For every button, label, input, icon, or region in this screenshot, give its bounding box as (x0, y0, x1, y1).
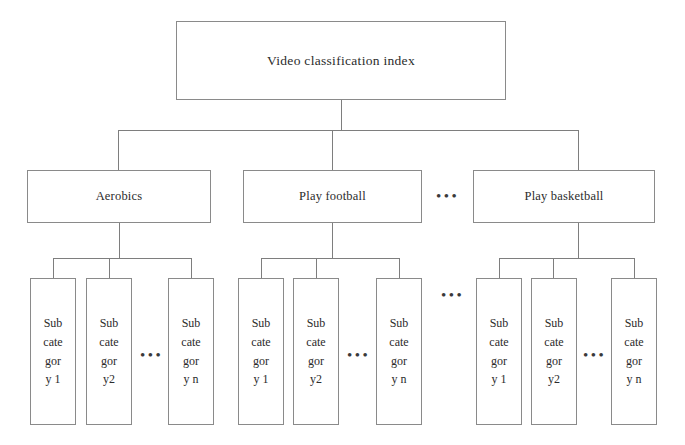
connector-group2-drop-2 (316, 258, 317, 278)
diagram-canvas: Video classification index Aerobics Play… (0, 0, 685, 445)
connector-play-football-stem (332, 223, 333, 258)
leaf-line: Sub (100, 314, 119, 333)
leaf-line: Sub (390, 314, 409, 333)
connector-drop-play-basketball (578, 130, 579, 170)
leaf-line: gor (253, 352, 269, 371)
leaf-line: y n (184, 370, 199, 389)
leaf-line: y n (392, 370, 407, 389)
leaf-line: cate (306, 333, 325, 352)
leaf-line: cate (544, 333, 563, 352)
node-play-football-label: Play football (299, 189, 366, 204)
leaf-line: Sub (307, 314, 326, 333)
leaf-line: gor (626, 352, 642, 371)
leaf-box: Sub cate gor y n (376, 278, 422, 425)
connector-group1-bus (53, 258, 191, 259)
node-play-football: Play football (243, 170, 422, 223)
leaf-line: cate (99, 333, 118, 352)
leaf-line: gor (101, 352, 117, 371)
leaf-line: y2 (103, 370, 115, 389)
connector-group3-drop-3 (634, 258, 635, 278)
leaf-line: Sub (545, 314, 564, 333)
leaf-line: Sub (625, 314, 644, 333)
leaf-box: Sub cate gor y2 (293, 278, 339, 425)
leaf-box: Sub cate gor y 1 (30, 278, 76, 425)
leaf-box: Sub cate gor y 1 (238, 278, 284, 425)
connector-group1-drop-2 (109, 258, 110, 278)
leaf-line: Sub (182, 314, 201, 333)
leaf-line: gor (491, 352, 507, 371)
leaf-line: Sub (44, 314, 63, 333)
leaf-line: y 1 (492, 370, 507, 389)
connector-level2-bus (118, 130, 578, 131)
leaf-line: gor (308, 352, 324, 371)
node-aerobics-label: Aerobics (96, 189, 143, 204)
connector-group1-drop-1 (53, 258, 54, 278)
connector-group2-bus (261, 258, 399, 259)
leaf-line: y 1 (46, 370, 61, 389)
leaf-line: cate (624, 333, 643, 352)
leaf-line: y2 (548, 370, 560, 389)
node-root-label: Video classification index (267, 53, 415, 69)
node-play-basketball-label: Play basketball (524, 189, 603, 204)
leaf-line: cate (43, 333, 62, 352)
leaf-box: Sub cate gor y2 (531, 278, 577, 425)
connector-group1-drop-3 (191, 258, 192, 278)
connector-group2-drop-1 (261, 258, 262, 278)
connector-drop-aerobics (118, 130, 119, 170)
ellipsis-leaf-row: ••• (441, 288, 464, 303)
connector-play-basketball-stem (578, 223, 579, 258)
leaf-line: cate (181, 333, 200, 352)
leaf-box: Sub cate gor y 1 (476, 278, 522, 425)
node-aerobics: Aerobics (27, 170, 211, 223)
connector-aerobics-stem (119, 223, 120, 258)
leaf-line: gor (546, 352, 562, 371)
leaf-line: cate (251, 333, 270, 352)
leaf-box: Sub cate gor y2 (86, 278, 132, 425)
node-play-basketball: Play basketball (473, 170, 655, 223)
leaf-box: Sub cate gor y n (611, 278, 657, 425)
ellipsis-group1-inner: ••• (140, 348, 163, 363)
leaf-line: gor (183, 352, 199, 371)
leaf-line: y 1 (254, 370, 269, 389)
connector-drop-play-football (332, 130, 333, 170)
leaf-line: gor (45, 352, 61, 371)
connector-group3-drop-2 (553, 258, 554, 278)
connector-group2-drop-3 (399, 258, 400, 278)
ellipsis-group2-inner: ••• (347, 348, 370, 363)
leaf-line: cate (389, 333, 408, 352)
node-root: Video classification index (176, 21, 506, 100)
leaf-box: Sub cate gor y n (168, 278, 214, 425)
ellipsis-level2: ••• (436, 189, 459, 204)
ellipsis-group3-inner: ••• (583, 348, 606, 363)
connector-group3-bus (499, 258, 634, 259)
connector-group3-drop-1 (499, 258, 500, 278)
leaf-line: cate (489, 333, 508, 352)
leaf-line: gor (391, 352, 407, 371)
connector-root-stem (341, 100, 342, 130)
leaf-line: y n (627, 370, 642, 389)
leaf-line: Sub (252, 314, 271, 333)
leaf-line: y2 (310, 370, 322, 389)
leaf-line: Sub (490, 314, 509, 333)
